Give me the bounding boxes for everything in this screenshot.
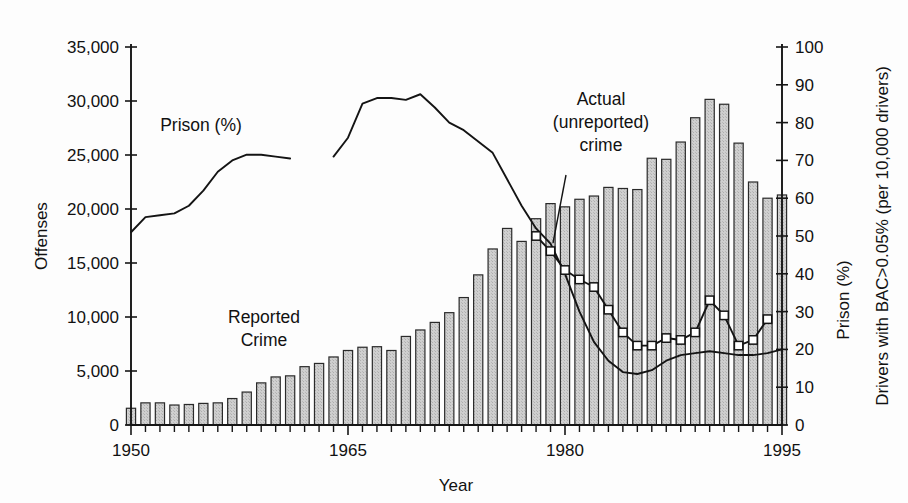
y-axis-left-title: Offenses bbox=[32, 202, 51, 270]
bar-1986 bbox=[647, 158, 656, 425]
bar-1971 bbox=[430, 322, 439, 425]
bar-1972 bbox=[445, 313, 454, 425]
bar-1991 bbox=[720, 104, 729, 425]
offenses-prison-bac-chart: 05,00010,00015,00020,00025,00030,00035,0… bbox=[0, 0, 908, 503]
y-axis-right-tick-label-100: 100 bbox=[795, 38, 823, 57]
actual-crime-marker-1991 bbox=[720, 311, 728, 319]
bar-1962 bbox=[300, 367, 309, 425]
bar-1952 bbox=[155, 403, 164, 425]
bar-1964 bbox=[329, 357, 338, 425]
actual-crime-marker-1985 bbox=[633, 341, 641, 349]
actual-crime-marker-1979 bbox=[546, 247, 554, 255]
y-axis-left-tick-label-25000: 25,000 bbox=[67, 146, 119, 165]
bar-1976 bbox=[503, 228, 512, 425]
actual-crime-marker-1984 bbox=[619, 328, 627, 336]
bar-1985 bbox=[633, 190, 642, 425]
actual-crime-marker-1978 bbox=[532, 232, 540, 240]
chart-container: 05,00010,00015,00020,00025,00030,00035,0… bbox=[0, 0, 908, 503]
y-axis-left-tick-label-30000: 30,000 bbox=[67, 92, 119, 111]
bar-1961 bbox=[286, 376, 295, 425]
bar-1987 bbox=[662, 159, 671, 425]
actual-crime-marker-1990 bbox=[705, 296, 713, 304]
y-axis-right-tick-label-60: 60 bbox=[795, 189, 814, 208]
y-axis-right-title-prison: Prison (%) bbox=[834, 260, 853, 339]
bar-1978 bbox=[531, 219, 540, 425]
bar-1980 bbox=[560, 207, 569, 425]
bar-1968 bbox=[387, 350, 396, 425]
bar-1992 bbox=[734, 143, 743, 425]
bar-1965 bbox=[343, 350, 352, 425]
y-axis-left-tick-label-15000: 15,000 bbox=[67, 254, 119, 273]
bar-1960 bbox=[271, 377, 280, 425]
annotation-prison: Prison (%) bbox=[160, 115, 242, 135]
bar-1974 bbox=[474, 275, 483, 425]
annotation-actual-crime-line1: Actual bbox=[577, 89, 626, 109]
bar-1967 bbox=[372, 347, 381, 425]
annotation-reported-crime-line2: Crime bbox=[241, 330, 288, 350]
x-axis-tick-label-1995: 1995 bbox=[763, 441, 801, 460]
actual-crime-marker-1988 bbox=[677, 336, 685, 344]
bar-1970 bbox=[416, 330, 425, 425]
actual-crime-marker-1986 bbox=[648, 341, 656, 349]
bar-1975 bbox=[488, 249, 497, 425]
actual-crime-marker-1987 bbox=[662, 334, 670, 342]
bar-1973 bbox=[459, 298, 468, 425]
x-axis-title: Year bbox=[439, 476, 474, 495]
bar-1990 bbox=[705, 99, 714, 425]
y-axis-right-tick-label-30: 30 bbox=[795, 303, 814, 322]
y-axis-right-title-bac: Drivers with BAC>0.05% (per 10,000 drive… bbox=[873, 66, 892, 406]
bar-1958 bbox=[242, 392, 251, 425]
y-axis-right-tick-label-40: 40 bbox=[795, 265, 814, 284]
actual-crime-marker-1994 bbox=[763, 315, 771, 323]
y-axis-left-tick-label-10000: 10,000 bbox=[67, 308, 119, 327]
y-axis-left-tick-label-0: 0 bbox=[110, 416, 119, 435]
y-axis-left-tick-label-5000: 5,000 bbox=[76, 362, 119, 381]
actual-crime-marker-1980 bbox=[561, 266, 569, 274]
y-axis-right-tick-label-90: 90 bbox=[795, 76, 814, 95]
bar-1988 bbox=[676, 142, 685, 425]
x-axis-tick-label-1980: 1980 bbox=[546, 441, 584, 460]
bar-1957 bbox=[228, 399, 237, 425]
bar-1955 bbox=[199, 403, 208, 425]
bar-1966 bbox=[358, 347, 367, 425]
actual-crime-marker-1983 bbox=[604, 306, 612, 314]
annotation-reported-crime-line1: Reported bbox=[228, 307, 300, 327]
x-axis-tick-label-1965: 1965 bbox=[329, 441, 367, 460]
y-axis-right-tick-label-70: 70 bbox=[795, 151, 814, 170]
bar-1984 bbox=[618, 188, 627, 425]
actual-crime-marker-1982 bbox=[590, 283, 598, 291]
bar-1993 bbox=[748, 182, 757, 425]
x-axis-tick-label-1950: 1950 bbox=[112, 441, 150, 460]
actual-crime-marker-1993 bbox=[749, 336, 757, 344]
actual-crime-marker-1989 bbox=[691, 328, 699, 336]
bar-1954 bbox=[184, 404, 193, 425]
bar-1994 bbox=[763, 198, 772, 425]
y-axis-right-tick-label-20: 20 bbox=[795, 340, 814, 359]
bar-1953 bbox=[170, 405, 179, 425]
annotation-actual-crime-line2: (unreported) bbox=[553, 112, 649, 132]
bar-1959 bbox=[257, 383, 266, 425]
bar-1969 bbox=[401, 336, 410, 425]
y-axis-right-tick-label-0: 0 bbox=[795, 416, 804, 435]
y-axis-left-tick-label-20000: 20,000 bbox=[67, 200, 119, 219]
y-axis-right-tick-label-50: 50 bbox=[795, 227, 814, 246]
bar-1951 bbox=[141, 403, 150, 425]
bar-1963 bbox=[314, 363, 323, 425]
y-axis-right-tick-label-80: 80 bbox=[795, 114, 814, 133]
bar-1977 bbox=[517, 241, 526, 425]
bar-1989 bbox=[691, 118, 700, 425]
bar-1982 bbox=[589, 196, 598, 425]
y-axis-left-tick-label-35000: 35,000 bbox=[67, 38, 119, 57]
actual-crime-marker-1992 bbox=[734, 341, 742, 349]
annotation-actual-crime-line3: crime bbox=[580, 135, 623, 155]
y-axis-right-tick-label-10: 10 bbox=[795, 378, 814, 397]
bar-1956 bbox=[213, 403, 222, 425]
actual-crime-marker-1981 bbox=[575, 275, 583, 283]
